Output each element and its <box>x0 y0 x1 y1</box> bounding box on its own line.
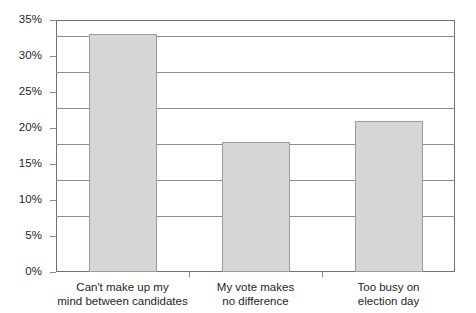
y-tick-label: 25% <box>2 86 42 98</box>
y-tick-label: 20% <box>2 122 42 134</box>
y-tick-mark <box>50 272 56 273</box>
x-axis-label-line2: no difference <box>189 294 322 308</box>
x-axis-label-line1: Can't make up my <box>76 281 168 293</box>
bar[interactable] <box>89 34 157 272</box>
y-tick-label: 35% <box>2 14 42 26</box>
x-axis-label-line2: election day <box>322 294 455 308</box>
bar[interactable] <box>222 142 290 272</box>
y-tick-label: 10% <box>2 194 42 206</box>
y-tick-label: 30% <box>2 50 42 62</box>
x-axis-label-line1: Too busy on <box>357 281 419 293</box>
x-axis-label: Can't make up mymind between candidates <box>56 280 189 308</box>
x-axis-label: Too busy onelection day <box>322 280 455 308</box>
y-tick-label: 5% <box>2 230 42 242</box>
bars-layer <box>56 20 455 272</box>
x-tick-mark <box>322 272 323 277</box>
x-axis-label-line2: mind between candidates <box>56 294 189 308</box>
x-tick-mark <box>189 272 190 277</box>
y-tick-label: 0% <box>2 266 42 278</box>
bar-chart: 0%5%10%15%20%25%30%35% Can't make up mym… <box>0 0 476 313</box>
x-axis-label: My vote makesno difference <box>189 280 322 308</box>
y-tick-label: 15% <box>2 158 42 170</box>
x-axis-label-line1: My vote makes <box>217 281 294 293</box>
bar[interactable] <box>355 121 423 272</box>
